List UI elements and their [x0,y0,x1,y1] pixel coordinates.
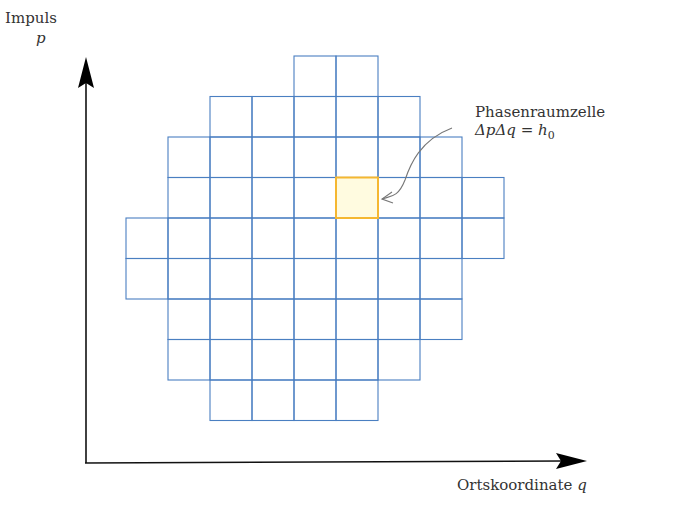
grid-cell [210,218,252,259]
grid-cell [420,137,462,178]
annotation-title: Phasenraumzelle [475,103,605,121]
grid-cell [210,137,252,178]
annotation-arrow [382,128,452,199]
x-axis-title: Ortskoordinate [457,476,572,494]
grid-cell [210,259,252,300]
grid-cell [420,259,462,300]
grid-cell [168,299,210,340]
grid-cell [168,218,210,259]
grid-cell [378,259,420,300]
grid-cell [168,259,210,300]
grid-cell [336,299,378,340]
highlighted-phase-cell [336,178,378,219]
grid-cell [378,340,420,381]
grid-cell [168,137,210,178]
grid-cell [252,380,294,421]
grid-cell [336,56,378,97]
grid-cell [252,97,294,138]
grid-cell [336,218,378,259]
grid-cell [252,137,294,178]
grid-cell [126,218,168,259]
grid-cell [252,340,294,381]
y-axis-label: Impuls [5,9,57,27]
grid-cell [210,178,252,219]
annotation-formula-subscript: 0 [548,129,555,142]
grid-cell [294,218,336,259]
grid-cell [336,380,378,421]
grid-cell [168,340,210,381]
grid-cell [210,380,252,421]
grid-cell [378,97,420,138]
grid-cell [294,97,336,138]
x-axis-symbol: q [577,476,587,494]
grid-cell [294,299,336,340]
y-axis-title: Impuls [5,9,57,27]
grid-cell [462,218,504,259]
grid-cell [126,259,168,300]
y-axis-symbol-text: p [36,29,46,47]
grid-cell [294,259,336,300]
grid-cell [252,299,294,340]
grid-cell [252,218,294,259]
grid-cell [210,299,252,340]
grid-cell [252,178,294,219]
grid-cell [336,259,378,300]
grid-cell [294,56,336,97]
grid-cell [336,137,378,178]
grid-cell [294,380,336,421]
grid-cell [294,137,336,178]
grid-cell [336,340,378,381]
grid-cell [252,259,294,300]
grid-cell [462,178,504,219]
annotation-formula-text: ΔpΔq = h [475,121,548,139]
grid-cell [294,340,336,381]
grid-cell [336,97,378,138]
highlighted-cell [336,178,378,219]
grid-cell [420,218,462,259]
y-axis [78,57,94,463]
grid-cell [168,178,210,219]
annotation-formula: ΔpΔq = h0 [475,121,555,145]
phase-space-grid [126,56,504,421]
annotation-title-text: Phasenraumzelle [475,103,605,121]
grid-cell [420,178,462,219]
grid-cell [378,299,420,340]
grid-cell [294,178,336,219]
grid-cell [210,340,252,381]
grid-cell [378,137,420,178]
y-axis-symbol: p [36,29,46,47]
grid-cell [378,218,420,259]
phase-space-diagram [0,0,678,517]
grid-cell [210,97,252,138]
x-axis-label: Ortskoordinate q [457,476,587,494]
grid-cell [420,299,462,340]
x-axis [85,453,587,469]
